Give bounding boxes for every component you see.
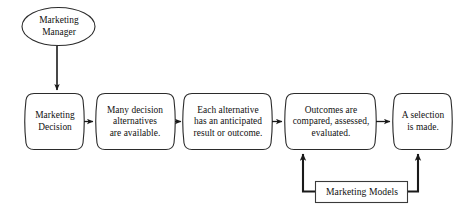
node-selection-made: [393, 94, 453, 150]
connector-models-to-selection: [408, 154, 418, 192]
node-marketing-models: [316, 182, 408, 203]
flowchart-diagram: Marketing Manager Marketing Decision Man…: [0, 0, 464, 215]
connector-models-to-outcomes: [303, 154, 315, 192]
node-many-alternatives: [96, 94, 176, 150]
node-marketing-manager: [22, 8, 95, 46]
node-outcomes-evaluated: [285, 94, 377, 150]
node-marketing-decision: [25, 94, 85, 150]
node-anticipated-outcome: [183, 94, 273, 150]
flowchart-canvas: [0, 0, 464, 215]
